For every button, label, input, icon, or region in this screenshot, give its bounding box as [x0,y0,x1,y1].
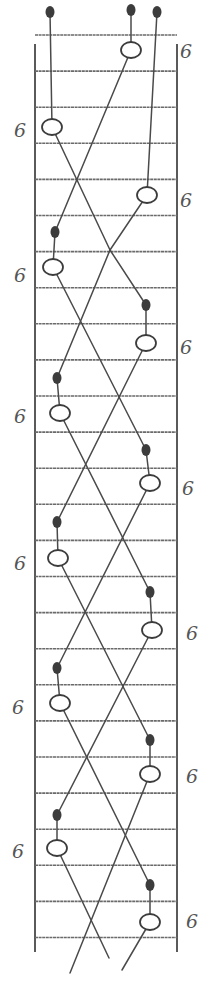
ladder-diagram: 6666666666666 [0,0,219,1006]
stage-label-right: 6 [182,477,194,499]
open-circle [47,840,67,856]
filled-dot [146,586,155,598]
stage-label-left: 6 [14,119,26,141]
stage-label-right: 6 [180,336,192,358]
open-circle [42,119,62,135]
stage-label-left: 6 [12,696,24,718]
filled-dot [146,734,155,746]
bell-path [60,703,150,885]
open-circle [121,42,141,58]
open-circle [140,475,160,491]
stage-label-left: 6 [14,264,26,286]
open-circle [136,335,156,351]
bell-path [57,483,150,668]
bell-path [147,12,157,195]
open-circle [142,622,162,638]
stage-label-right: 6 [186,622,198,644]
stage-label-right: 6 [186,910,198,932]
bell-path [53,267,146,450]
open-circle [48,550,68,566]
filled-dot [53,372,62,384]
stage-label-left: 6 [12,840,24,862]
filled-dot [53,516,62,528]
open-circle [137,187,157,203]
stage-label-right: 6 [186,765,198,787]
open-circle [140,914,160,930]
bell-path [50,12,52,127]
filled-dot [153,6,162,18]
bell-path [60,413,150,592]
stage-label-right: 6 [180,40,192,62]
filled-dot [142,299,151,311]
bell-path [55,50,131,232]
filled-dot [46,6,55,18]
filled-dot [53,662,62,674]
open-circle [43,259,63,275]
bell-path [57,250,110,378]
stage-label-left: 6 [14,552,26,574]
stage-label-right: 6 [180,189,192,211]
bell-path [52,127,110,250]
filled-dot [127,4,136,16]
stage-label-left: 6 [14,405,26,427]
bell-path [110,250,146,305]
open-circle [140,766,160,782]
open-circle [50,405,70,421]
filled-dot [142,444,151,456]
open-circle [50,695,70,711]
filled-dot [146,879,155,891]
filled-dot [53,809,62,821]
bell-path [57,630,152,815]
bell-path [110,195,147,250]
filled-dot [51,226,60,238]
